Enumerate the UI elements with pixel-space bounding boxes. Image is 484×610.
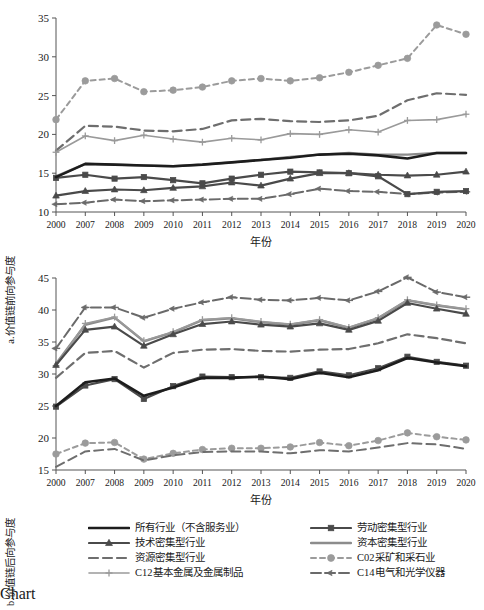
legend-swatch-all-icon — [88, 522, 130, 534]
x-tick-label: 2011 — [193, 477, 212, 488]
y-tick-label: 35 — [38, 336, 50, 348]
x-tick-label: 2000 — [46, 477, 65, 488]
x-tick-label: 2009 — [134, 477, 153, 488]
x-tick-label: 2013 — [251, 477, 270, 488]
chart-legend: 所有行业（不含服务业）劳动密集型行业技术密集型行业资本密集型行业资源密集型行业C… — [0, 520, 484, 582]
y-tick-label: 10 — [38, 206, 50, 218]
x-tick-label: 2008 — [105, 477, 124, 488]
plot-area-b: 1520253035404520002007200820092010201120… — [0, 262, 484, 520]
x-tick-label: 2007 — [76, 219, 95, 230]
x-tick-label: 2017 — [369, 477, 388, 488]
x-tick-label: 2012 — [222, 477, 241, 488]
y-tick-label: 15 — [38, 464, 50, 476]
x-tick-label: 2018 — [398, 219, 417, 230]
y-tick-label: 40 — [38, 304, 50, 316]
legend-grid: 所有行业（不含服务业）劳动密集型行业技术密集型行业资本密集型行业资源密集型行业C… — [88, 520, 484, 580]
x-tick-label: 2014 — [281, 219, 300, 230]
legend-item-resource[interactable]: 资源密集型行业 — [88, 550, 294, 565]
x-tick-label: 2010 — [164, 219, 183, 230]
series-c02 — [53, 22, 470, 123]
chart-svg-a: 1015202530352000200720082009201020112012… — [0, 0, 484, 262]
legend-label-capital: 资本密集型行业 — [357, 537, 427, 549]
series-c12 — [53, 111, 470, 156]
legend-item-c02[interactable]: C02采矿和采石业 — [310, 550, 484, 565]
legend-label-tech: 技术密集型行业 — [135, 537, 205, 549]
x-axis-title: 年份 — [250, 493, 272, 506]
y-tick-label: 15 — [38, 167, 50, 179]
x-tick-label: 2018 — [398, 477, 417, 488]
legend-swatch-c02-icon — [310, 552, 352, 564]
legend-swatch-c12-icon — [88, 567, 130, 579]
x-axis-title: 年份 — [250, 235, 272, 248]
legend-label-c14: C14电气和光学仪器 — [357, 567, 445, 579]
y-tick-label: 30 — [38, 368, 50, 380]
y-tick-label: 30 — [38, 51, 50, 63]
x-tick-label: 2012 — [222, 219, 241, 230]
legend-item-labor[interactable]: 劳动密集型行业 — [310, 520, 484, 535]
x-tick-label: 2019 — [427, 477, 446, 488]
x-tick-label: 2011 — [193, 219, 212, 230]
legend-item-c14[interactable]: C14电气和光学仪器 — [310, 565, 484, 580]
x-tick-label: 2013 — [251, 219, 270, 230]
x-tick-label: 2016 — [339, 477, 358, 488]
y-tick-label: 25 — [38, 400, 50, 412]
legend-label-labor: 劳动密集型行业 — [357, 522, 427, 534]
legend-swatch-resource-icon — [88, 552, 130, 564]
x-tick-label: 2008 — [105, 219, 124, 230]
x-tick-label: 2007 — [76, 477, 95, 488]
y-tick-label: 20 — [38, 432, 50, 444]
x-tick-label: 2020 — [456, 219, 475, 230]
legend-label-c12: C12基本金属及金属制品 — [135, 567, 243, 579]
legend-item-tech[interactable]: 技术密集型行业 — [88, 535, 294, 550]
x-tick-label: 2019 — [427, 219, 446, 230]
legend-swatch-tech-icon — [88, 537, 130, 549]
legend-label-c02: C02采矿和采石业 — [357, 552, 435, 564]
legend-item-c12[interactable]: C12基本金属及金属制品 — [88, 565, 294, 580]
legend-label-all: 所有行业（不含服务业） — [135, 522, 245, 534]
chart-svg-b: 1520253035404520002007200820092010201120… — [0, 262, 484, 520]
y-tick-label: 35 — [38, 12, 50, 24]
x-tick-label: 2016 — [339, 219, 358, 230]
x-tick-label: 2010 — [164, 477, 183, 488]
series-c02 — [53, 430, 470, 463]
x-tick-label: 2015 — [310, 477, 329, 488]
series-c14 — [52, 275, 470, 351]
x-tick-label: 2009 — [134, 219, 153, 230]
x-tick-label: 2000 — [46, 219, 65, 230]
legend-swatch-labor-icon — [310, 522, 352, 534]
x-tick-label: 2014 — [281, 477, 300, 488]
legend-label-resource: 资源密集型行业 — [135, 552, 205, 564]
legend-item-capital[interactable]: 资本密集型行业 — [310, 535, 484, 550]
y-tick-label: 25 — [38, 90, 50, 102]
x-tick-label: 2015 — [310, 219, 329, 230]
series-labor — [53, 354, 468, 409]
legend-item-all[interactable]: 所有行业（不含服务业） — [88, 520, 294, 535]
legend-swatch-c14-icon — [310, 567, 352, 579]
chart-panel-a: a.价值链前向参与度 10152025303520002007200820092… — [0, 0, 484, 262]
x-tick-label: 2020 — [456, 477, 475, 488]
plot-area-a: 1015202530352000200720082009201020112012… — [0, 0, 484, 262]
y-tick-label: 20 — [38, 128, 50, 140]
chart-panel-b: b.价值链后向参与度 15202530354045200020072008200… — [0, 262, 484, 520]
legend-swatch-capital-icon — [310, 537, 352, 549]
x-tick-label: 2017 — [369, 219, 388, 230]
y-tick-label: 45 — [38, 272, 50, 284]
